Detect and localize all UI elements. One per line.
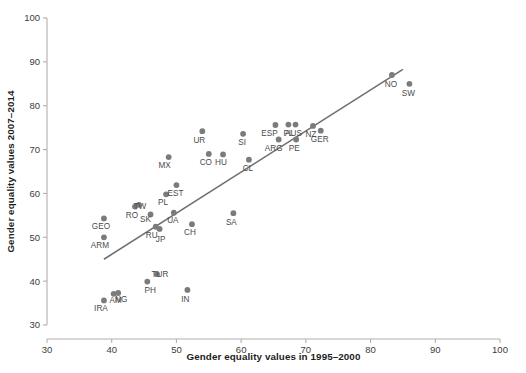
point-label: HU bbox=[215, 158, 227, 167]
y-tick-label: 40 bbox=[29, 276, 40, 287]
y-axis-title: Gender equality values 2007–2014 bbox=[5, 90, 16, 253]
point-label: TUR bbox=[152, 270, 169, 279]
point-label: SW bbox=[402, 89, 415, 98]
point-label: PE bbox=[289, 144, 300, 153]
y-tick-label: 60 bbox=[29, 188, 40, 199]
data-point bbox=[310, 123, 316, 129]
data-point bbox=[220, 151, 226, 157]
point-label: JP bbox=[156, 235, 166, 244]
data-point bbox=[389, 72, 395, 78]
point-label: MX bbox=[159, 161, 172, 170]
y-axis: 30405060708090100 bbox=[24, 12, 47, 330]
data-point bbox=[185, 287, 191, 293]
point-label: IN bbox=[181, 295, 189, 304]
point-label: CL bbox=[243, 164, 254, 173]
point-label: GEO bbox=[92, 222, 110, 231]
x-tick-label: 100 bbox=[492, 344, 508, 355]
x-tick-label: 80 bbox=[365, 344, 376, 355]
scatter-chart-figure: 30405060708090100 30405060708090100 GEOA… bbox=[0, 0, 526, 373]
point-label: NG bbox=[115, 295, 127, 304]
y-tick-label: 80 bbox=[29, 100, 40, 111]
x-tick-label: 30 bbox=[42, 344, 53, 355]
data-point bbox=[206, 151, 212, 157]
point-label: TW bbox=[134, 202, 147, 211]
data-point bbox=[101, 216, 107, 222]
y-tick-label: 50 bbox=[29, 232, 40, 243]
point-label: AUS bbox=[285, 129, 302, 138]
data-point bbox=[166, 154, 172, 160]
x-tick-label: 40 bbox=[106, 344, 117, 355]
data-point bbox=[273, 122, 279, 128]
data-point bbox=[318, 128, 324, 134]
point-label: UA bbox=[167, 216, 179, 225]
point-label: PH bbox=[145, 286, 156, 295]
y-tick-label: 100 bbox=[24, 12, 40, 23]
data-point bbox=[246, 157, 252, 163]
plot-canvas: 30405060708090100 30405060708090100 GEOA… bbox=[0, 0, 526, 373]
point-label: CH bbox=[184, 228, 196, 237]
y-tick-label: 90 bbox=[29, 56, 40, 67]
data-point bbox=[293, 122, 299, 128]
point-label: PL bbox=[158, 198, 168, 207]
data-point bbox=[199, 128, 205, 134]
x-tick-label: 50 bbox=[171, 344, 182, 355]
x-tick-label: 90 bbox=[430, 344, 441, 355]
point-label: ARG bbox=[265, 144, 283, 153]
point-label: CO bbox=[200, 158, 212, 167]
data-points-layer bbox=[101, 72, 412, 303]
point-label: SA bbox=[226, 218, 237, 227]
point-label: EST bbox=[167, 189, 183, 198]
point-label: RO bbox=[126, 211, 138, 220]
data-point bbox=[101, 234, 107, 240]
point-label: SI bbox=[238, 138, 246, 147]
point-label: SK bbox=[140, 215, 151, 224]
point-label: UR bbox=[193, 136, 205, 145]
data-point bbox=[174, 182, 180, 188]
point-label: NO bbox=[385, 80, 397, 89]
data-point bbox=[230, 210, 236, 216]
point-labels-layer: GEOARMIRAAMNGROTWSKRUJPPHTURMXPLUAESTINC… bbox=[91, 80, 415, 313]
point-label: IRA bbox=[94, 304, 108, 313]
data-point bbox=[189, 221, 195, 227]
data-point bbox=[144, 279, 150, 285]
data-point bbox=[240, 131, 246, 137]
data-point bbox=[285, 122, 291, 128]
point-label: ARM bbox=[91, 241, 109, 250]
y-tick-label: 30 bbox=[29, 319, 40, 330]
x-axis-title: Gender equality values in 1995–2000 bbox=[187, 351, 361, 362]
data-point bbox=[101, 298, 107, 304]
data-point bbox=[407, 81, 413, 87]
y-tick-label: 70 bbox=[29, 144, 40, 155]
point-label: GER bbox=[311, 135, 329, 144]
point-label: ESP bbox=[261, 129, 278, 138]
